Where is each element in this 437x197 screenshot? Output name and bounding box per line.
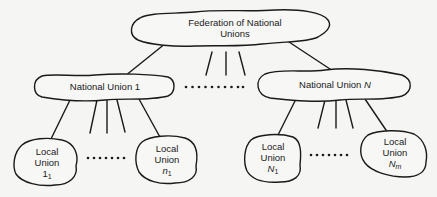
diagram-canvas: Federation of National Unions National U… bbox=[0, 0, 437, 197]
nu1-label-prefix: National Union bbox=[70, 81, 135, 92]
root-label-line1: Federation of National bbox=[150, 17, 320, 28]
lu11-node-label: Local Union 11 bbox=[18, 146, 76, 182]
ellipsis-national bbox=[185, 86, 245, 89]
luN1-label-line1: Local bbox=[244, 141, 302, 152]
edge-nu1-stub-3 bbox=[117, 100, 125, 132]
nu1-node-label: National Union 1 bbox=[40, 81, 170, 92]
nuN-node-label: National Union N bbox=[265, 79, 405, 90]
root-node-label: Federation of National Unions bbox=[150, 17, 320, 39]
lun1-label-line2: Union bbox=[138, 154, 196, 165]
edge-nu1-to-lun1 bbox=[139, 99, 161, 139]
nuN-label-prefix: National Union bbox=[299, 79, 364, 90]
edge-nu1-stub-1 bbox=[90, 100, 97, 133]
luN1-label-id: N1 bbox=[244, 163, 302, 177]
edge-nuN-to-luN1 bbox=[278, 99, 296, 135]
luNm-node-label: Local Union Nm bbox=[364, 136, 426, 172]
lu11-label-line1: Local bbox=[18, 146, 76, 157]
nuN-label-var: N bbox=[364, 79, 371, 90]
lun1-node-label: Local Union n1 bbox=[138, 143, 196, 179]
lu11-label-line2: Union bbox=[18, 157, 76, 168]
edge-nuN-stub-3 bbox=[346, 100, 353, 128]
lun1-sub: 1 bbox=[168, 170, 172, 177]
luNm-sub: m bbox=[396, 163, 402, 170]
lu11-label-id: 11 bbox=[18, 168, 76, 182]
luN1-label-line2: Union bbox=[244, 152, 302, 163]
luN1-sub: 1 bbox=[274, 168, 278, 175]
edge-root-stub-1 bbox=[206, 52, 212, 75]
luNm-label-line2: Union bbox=[364, 147, 426, 158]
edge-nu1-to-lu11 bbox=[50, 98, 71, 141]
lu11-sub: 1 bbox=[48, 173, 52, 180]
root-label-line2: Unions bbox=[150, 28, 320, 39]
ellipsis-local-right bbox=[310, 154, 349, 157]
edge-root-to-nu1 bbox=[125, 43, 166, 76]
luNm-var: N bbox=[389, 158, 396, 169]
nu1-label-var: 1 bbox=[135, 81, 140, 92]
luNm-label-line1: Local bbox=[364, 136, 426, 147]
ellipsis-local-left bbox=[87, 157, 126, 160]
lun1-label-id: n1 bbox=[138, 165, 196, 179]
luN1-node-label: Local Union N1 bbox=[244, 141, 302, 177]
edge-root-to-nuN bbox=[289, 42, 333, 71]
luNm-label-id: Nm bbox=[364, 158, 426, 172]
edge-nuN-stub-1 bbox=[318, 100, 325, 128]
lun1-label-line1: Local bbox=[138, 143, 196, 154]
edge-root-stub-3 bbox=[239, 52, 245, 75]
edge-nuN-to-luNm bbox=[365, 99, 388, 133]
